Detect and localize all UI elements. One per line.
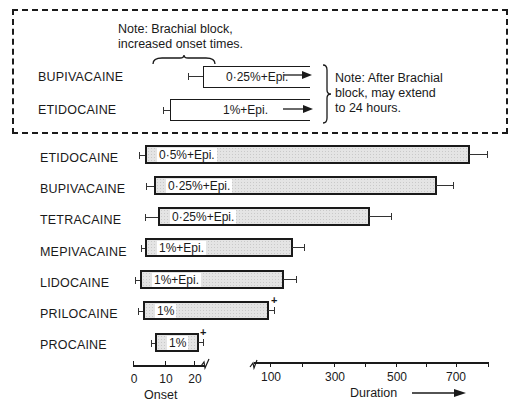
error-cap (139, 152, 140, 159)
duration-tick-label: 300 (325, 370, 345, 384)
onset-axis-label: Onset (144, 388, 177, 402)
tick (456, 362, 457, 367)
error-cap (141, 245, 142, 252)
bar-bupivacaine: 0·25%+Epi. (154, 176, 437, 195)
error-cap (135, 277, 136, 284)
error-cap (296, 276, 297, 283)
bar-label: 0·25%+Epi. (226, 70, 288, 84)
arrow-right-icon (412, 388, 466, 398)
tick (133, 361, 134, 366)
error-cap (138, 308, 139, 315)
bar-etidocaine: 0·5%+Epi. (145, 145, 470, 164)
bar-tetracaine: 0·25%+Epi. (158, 207, 370, 226)
error-cap (274, 307, 275, 314)
bar-label: 0·25%+Epi. (170, 210, 236, 224)
bar-label: 1%+Epi. (157, 241, 206, 255)
tick (165, 361, 166, 366)
bar-prilocaine: 1% (143, 301, 269, 320)
bar-label: 0·25%+Epi. (166, 179, 232, 193)
axis-break-icon (249, 358, 259, 370)
tick (270, 362, 271, 367)
drug-label: MEPIVACAINE (40, 245, 127, 259)
drug-label: BUPIVACAINE (40, 182, 125, 196)
error-bar (292, 247, 304, 248)
error-cap (145, 214, 146, 221)
duration-tick-label: 700 (446, 370, 466, 384)
error-cap (146, 183, 147, 190)
bar-label: 1%+Epi. (223, 103, 268, 117)
error-cap (203, 339, 204, 346)
tick (334, 362, 335, 367)
tick (396, 362, 397, 367)
error-cap (151, 340, 152, 347)
bar-procaine: 1% (155, 333, 199, 352)
brace-icon (322, 64, 332, 124)
arrow-right-icon (283, 104, 313, 114)
tick (365, 362, 366, 367)
onset-note: Note: Brachial block, increased onset ti… (118, 22, 243, 52)
note-row-label: ETIDOCAINE (38, 103, 116, 117)
drug-label: PROCAINE (40, 338, 107, 352)
axis-break-icon (200, 358, 210, 370)
bar-mepivacaine: 1%+Epi. (145, 238, 293, 257)
significance-marker: + (200, 326, 206, 338)
error-cap (391, 213, 392, 220)
bar-label: 1% (167, 336, 188, 350)
onset-tick-label: 0 (131, 372, 138, 386)
bar-label: 0·5%+Epi. (157, 148, 217, 162)
duration-tick-label: 100 (261, 370, 281, 384)
onset-tick-label: 10 (159, 372, 172, 386)
tick (194, 361, 195, 366)
note-row-label: BUPIVACAINE (38, 70, 123, 84)
error-cap (304, 244, 305, 251)
error-bar (188, 76, 204, 77)
error-bar (145, 217, 159, 218)
tick (426, 362, 427, 367)
duration-note: Note: After Brachial block, may extend t… (335, 71, 443, 116)
bar-label: 1% (155, 304, 176, 318)
error-cap (487, 151, 488, 158)
error-bar (469, 154, 487, 155)
bar-lidocaine: 1%+Epi. (140, 270, 284, 289)
drug-label: PRILOCAINE (40, 307, 118, 321)
error-bar (436, 185, 453, 186)
significance-marker: + (271, 294, 277, 306)
duration-axis-line (254, 362, 489, 364)
bar-label: 1%+Epi. (152, 273, 201, 287)
duration-tick-label: 500 (387, 370, 407, 384)
onset-tick-label: 20 (188, 372, 201, 386)
drug-label: LIDOCAINE (40, 276, 109, 290)
tick (302, 362, 303, 367)
tick (488, 362, 489, 367)
error-bar (283, 279, 296, 280)
duration-axis-label: Duration (350, 386, 397, 400)
error-bar (369, 216, 391, 217)
drug-label: TETRACAINE (40, 213, 121, 227)
brace-icon (152, 55, 216, 65)
drug-label: ETIDOCAINE (40, 151, 118, 165)
arrow-right-icon (284, 70, 312, 80)
error-cap (453, 182, 454, 189)
error-cap (188, 73, 189, 80)
error-cap (163, 107, 164, 114)
